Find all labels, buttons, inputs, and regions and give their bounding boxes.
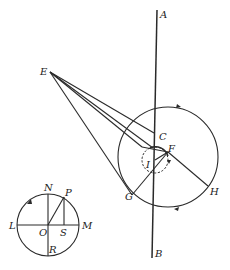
line-e-upper	[50, 72, 153, 148]
label-l: L	[8, 220, 16, 231]
label-f: F	[167, 143, 176, 154]
line-e-c	[50, 72, 154, 133]
arrow-icon-large-circle-bottom	[174, 207, 179, 211]
label-r: R	[48, 244, 57, 255]
line-f-h	[168, 152, 208, 186]
label-i: I	[145, 159, 151, 170]
line-e-middle	[50, 72, 142, 147]
label-o: O	[39, 227, 47, 238]
label-b: B	[154, 248, 162, 259]
radius-o-p	[48, 197, 64, 225]
label-g: G	[125, 191, 133, 202]
label-m: M	[81, 220, 93, 231]
label-c: C	[159, 131, 167, 142]
label-p: P	[64, 187, 72, 198]
label-s: S	[60, 227, 67, 238]
line-e-g	[50, 72, 132, 195]
label-a: A	[159, 9, 167, 20]
line-i-f	[155, 152, 168, 160]
label-e: E	[39, 66, 48, 77]
axis-line-ab	[152, 10, 157, 258]
label-h: H	[209, 186, 219, 197]
diagram-canvas: A B C E F G H I N P L O S M R	[0, 0, 230, 270]
label-n: N	[43, 182, 54, 193]
geometry-diagram: A B C E F G H I N P L O S M R	[0, 0, 230, 270]
arrow-icon-large-circle-top	[176, 104, 181, 108]
line-g-f	[132, 152, 168, 195]
